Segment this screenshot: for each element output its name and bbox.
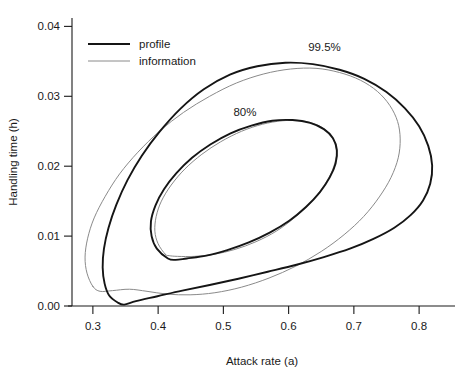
contour-information-80pct xyxy=(155,120,337,256)
legend-label-profile: profile xyxy=(139,38,170,50)
contour-information-99-5pct xyxy=(85,68,400,295)
x-axis-ticks: 0.30.40.50.60.70.8 xyxy=(85,306,427,332)
x-axis-title: Attack rate (a) xyxy=(226,355,298,367)
legend-label-information: information xyxy=(139,55,196,67)
contour-profile-80pct xyxy=(151,120,337,260)
chart-legend: profileinformation xyxy=(88,38,196,67)
y-tick-label: 0.01 xyxy=(38,230,60,242)
y-tick-label: 0.04 xyxy=(38,20,61,32)
x-tick-label: 0.5 xyxy=(215,320,231,332)
x-tick-label: 0.3 xyxy=(85,320,101,332)
contour-profile-99-5pct xyxy=(103,63,433,305)
y-tick-label: 0.02 xyxy=(38,160,60,172)
x-tick-label: 0.4 xyxy=(150,320,167,332)
contour-level-label: 80% xyxy=(233,106,256,118)
x-tick-label: 0.6 xyxy=(281,320,297,332)
y-tick-label: 0.03 xyxy=(38,90,60,102)
y-axis-title: Handling time (h) xyxy=(7,118,19,206)
chart-figure: 0.000.010.020.030.04 0.30.40.50.60.70.8 … xyxy=(0,0,460,374)
contour-curves-group xyxy=(85,63,432,305)
y-tick-label: 0.00 xyxy=(38,300,60,312)
contour-annotations-group: 99.5%80% xyxy=(233,41,340,118)
x-tick-label: 0.7 xyxy=(346,320,362,332)
confidence-region-plot: 0.000.010.020.030.04 0.30.40.50.60.70.8 … xyxy=(0,0,460,374)
y-axis-ticks: 0.000.010.020.030.04 xyxy=(38,20,72,312)
x-tick-label: 0.8 xyxy=(411,320,427,332)
contour-level-label: 99.5% xyxy=(308,41,341,53)
